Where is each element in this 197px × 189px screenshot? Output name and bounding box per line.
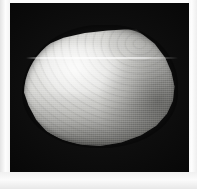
paper-margin-bottom-edge <box>0 172 197 189</box>
photo-black-background <box>10 3 189 172</box>
paper-margin-right-edge <box>188 0 197 189</box>
paper-margin-left-edge <box>0 0 10 189</box>
seashell-subject <box>24 27 176 146</box>
photograph-container <box>0 0 197 189</box>
shell-umbo-beak <box>109 27 170 75</box>
shell-body <box>24 27 176 146</box>
